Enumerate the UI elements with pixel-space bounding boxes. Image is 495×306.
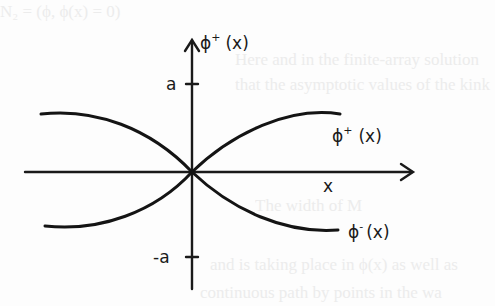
curve-phi-plus-left <box>45 172 192 227</box>
curve-phi-plus-label: ϕ+(x) <box>332 124 382 146</box>
tick-lower-label: -a <box>153 247 170 267</box>
curve-phi-minus-left <box>41 113 192 172</box>
x-axis-label: x <box>323 176 333 196</box>
curve-phi-minus-right <box>192 172 338 230</box>
curve-phi-minus-label: ϕ-(x) <box>348 220 390 242</box>
y-axis-label: ϕ+(x) <box>200 31 249 53</box>
curve-phi-plus-right <box>192 113 340 172</box>
tick-upper-label: a <box>166 74 176 94</box>
